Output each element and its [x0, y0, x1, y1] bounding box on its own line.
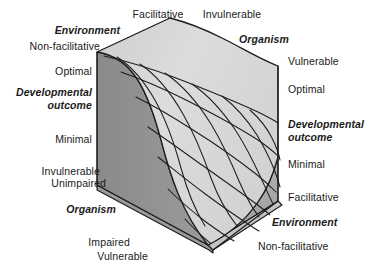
label-left-environment-tick: Non-facilitative [6, 40, 100, 52]
figure-canvas: Facilitative Invulnerable Environment No… [0, 0, 380, 269]
label-left-environment-title: Environment [20, 24, 120, 36]
label-left-outcome-title: Developmental outcome [2, 86, 92, 111]
label-right-outcome-low-tick: Minimal [288, 158, 368, 170]
label-right-outcome-title: Developmental outcome [288, 118, 380, 143]
label-left-organism-tick-unimpaired: Unimpaired [6, 177, 106, 189]
label-right-outcome-title-line1: Developmental [288, 118, 364, 130]
label-right-environment-tick-facilitative: Facilitative [288, 191, 376, 203]
label-top-environment-tick: Facilitative [118, 8, 198, 20]
label-right-organism-title: Organism [239, 33, 335, 45]
label-left-organism-tick-invulnerable: Invulnerable [6, 165, 100, 177]
label-right-outcome-title-line2: outcome [288, 131, 332, 143]
label-right-outcome-high-tick: Optimal [288, 83, 368, 95]
label-bottom-organism-tick-impaired: Impaired [40, 236, 130, 248]
label-left-outcome-high-tick: Optimal [14, 65, 92, 77]
label-left-outcome-title-line2: outcome [48, 99, 92, 111]
label-bottom-organism-tick-vulnerable: Vulnerable [52, 250, 148, 262]
label-left-organism-title: Organism [20, 203, 116, 215]
label-left-outcome-title-line1: Developmental [16, 86, 92, 98]
label-top-organism-tick: Invulnerable [190, 8, 274, 20]
label-right-environment-tick-nonfacilitative: Non-facilitative [258, 240, 368, 252]
label-right-environment-title: Environment [272, 216, 376, 228]
label-left-outcome-low-tick: Minimal [14, 133, 92, 145]
label-right-organism-tick: Vulnerable [288, 55, 376, 67]
